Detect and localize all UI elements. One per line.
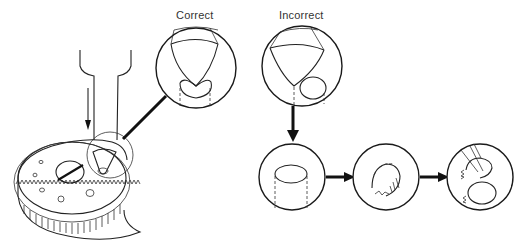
leader-line <box>123 96 166 139</box>
arrow-down-icon <box>85 120 91 130</box>
arrow-down-icon <box>287 130 299 142</box>
correct-detail <box>156 27 236 108</box>
failure-step-3 <box>447 144 513 210</box>
gear-wheel <box>14 140 140 239</box>
incorrect-detail <box>262 26 342 106</box>
drill-tool <box>80 50 133 178</box>
failure-step-1 <box>259 144 325 210</box>
failure-sequence <box>259 144 513 210</box>
diagram-drawing <box>0 0 526 246</box>
repair-diagram: Correct Incorrect <box>0 0 526 246</box>
failure-step-2 <box>353 144 419 210</box>
